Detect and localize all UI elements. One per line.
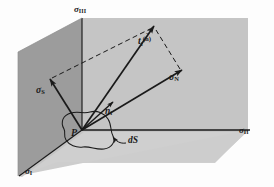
surface-element-label: dS: [128, 136, 138, 146]
normal-stress-label: σN: [169, 73, 179, 83]
traction-superscript-hat-group: ˆn: [145, 36, 149, 43]
axis-label-sigma-1-subscript: I: [30, 170, 33, 176]
traction-vector-label: ti(ˆn): [138, 36, 151, 47]
traction-vector-label-superscript: (ˆn): [143, 35, 151, 42]
unit-normal-label-subscript: i: [110, 109, 112, 116]
axis-label-sigma-3-subscript: III: [79, 8, 87, 14]
shear-stress-label: σS: [36, 86, 45, 96]
unit-normal-label: ni: [105, 107, 112, 117]
axis-label-sigma-1: σI: [25, 167, 32, 176]
point-label-P: P: [71, 128, 77, 138]
hat-accent-icon: ˆ: [146, 32, 148, 38]
axis-label-sigma-2-subscript: II: [244, 129, 249, 135]
shear-stress-label-subscript: S: [41, 88, 45, 95]
axis-label-sigma-2: σII: [239, 126, 249, 135]
stress-traction-diagram: σIII σII σI σN σS ni ti(ˆn) P dS: [0, 0, 274, 187]
axis-label-sigma-3: σIII: [74, 5, 86, 14]
normal-stress-label-subscript: N: [174, 75, 179, 82]
